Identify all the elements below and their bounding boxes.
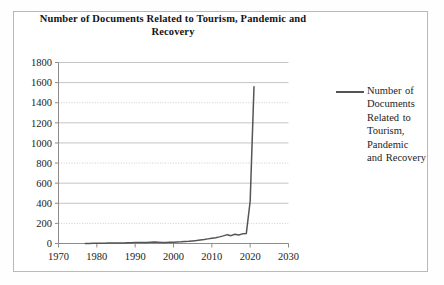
- data-series: [85, 87, 254, 244]
- figure-canvas: Number of Documents Related to Tourism, …: [0, 0, 444, 285]
- svg-text:1990: 1990: [125, 251, 146, 262]
- legend-line-swatch: [336, 91, 364, 93]
- svg-text:1000: 1000: [31, 138, 52, 149]
- legend-item: Number of Documents Related to Tourism, …: [336, 84, 424, 164]
- legend-item-label: Number of Documents Related to Tourism, …: [367, 84, 427, 164]
- svg-text:2020: 2020: [240, 251, 261, 262]
- svg-text:800: 800: [36, 158, 52, 169]
- svg-text:0: 0: [47, 238, 52, 249]
- svg-text:2000: 2000: [163, 251, 184, 262]
- svg-text:1970: 1970: [48, 251, 69, 262]
- svg-text:1200: 1200: [31, 118, 52, 129]
- svg-text:1800: 1800: [31, 57, 52, 68]
- svg-text:400: 400: [36, 198, 52, 209]
- y-tick-marks: [55, 63, 59, 244]
- svg-text:1980: 1980: [86, 251, 107, 262]
- svg-text:2030: 2030: [278, 251, 299, 262]
- svg-text:1600: 1600: [31, 77, 52, 88]
- x-tick-marks: [59, 244, 289, 248]
- x-tick-labels: 1970198019902000201020202030: [48, 251, 299, 262]
- svg-text:1400: 1400: [31, 97, 52, 108]
- svg-text:600: 600: [36, 178, 52, 189]
- svg-text:2010: 2010: [201, 251, 222, 262]
- svg-text:200: 200: [36, 218, 52, 229]
- y-tick-labels: 020040060080010001200140016001800: [31, 57, 52, 249]
- chart-legend: Number of Documents Related to Tourism, …: [336, 84, 424, 164]
